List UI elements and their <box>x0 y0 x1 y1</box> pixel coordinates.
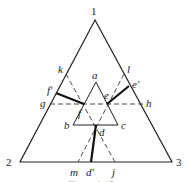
point-label-h: h <box>146 97 152 109</box>
point-label-g: g <box>40 97 46 109</box>
point-label-k: k <box>58 63 64 75</box>
point-label-f: f <box>78 107 83 119</box>
point-label-d-prime: d' <box>86 166 95 178</box>
point-label-l: l <box>127 63 130 75</box>
figure-caption: Figure 1.15 <box>68 179 114 182</box>
tie-line-e-e-prime <box>107 86 129 104</box>
dashed-line-k-j <box>66 74 115 162</box>
point-label-e-prime: e' <box>132 78 140 90</box>
point-label-a: a <box>92 69 98 81</box>
vertex-label-3: 3 <box>176 156 182 168</box>
dashed-line-l-m <box>78 74 124 162</box>
point-label-d: d <box>99 126 105 138</box>
point-label-e: e <box>104 89 109 101</box>
tie-line-d-d-prime <box>91 125 96 162</box>
ternary-diagram: 1 2 3 a b c d d' e e' f f' g h k l m j F… <box>0 0 190 182</box>
point-label-j: j <box>110 166 115 178</box>
point-label-c: c <box>121 119 126 131</box>
point-label-b: b <box>64 119 70 131</box>
point-label-f-prime: f' <box>47 84 53 96</box>
outer-triangle <box>20 20 172 162</box>
point-label-m: m <box>70 166 78 178</box>
vertex-label-2: 2 <box>6 156 12 168</box>
vertex-label-1: 1 <box>91 5 97 17</box>
